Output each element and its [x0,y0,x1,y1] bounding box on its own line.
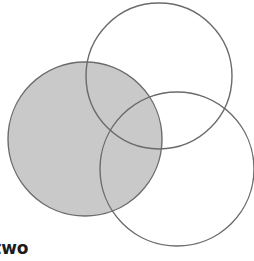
shaded-left-circle [8,62,162,216]
caption-label: two [0,238,29,258]
venn-diagram-canvas [0,0,254,261]
venn-diagram-figure: two [0,0,254,261]
